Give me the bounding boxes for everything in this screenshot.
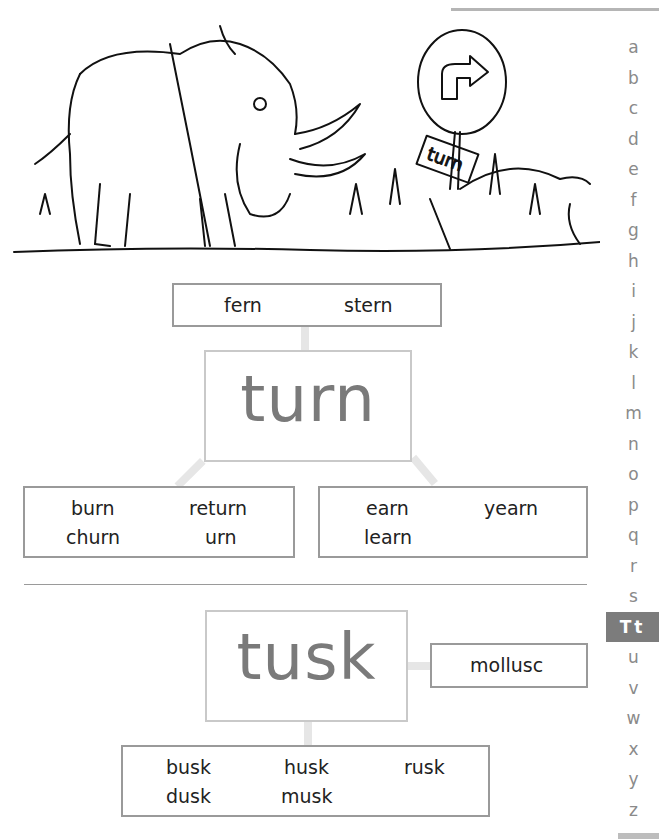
connector-top	[301, 326, 309, 350]
index-letter-z[interactable]: z	[608, 795, 659, 826]
index-letter-n[interactable]: n	[608, 429, 659, 460]
alphabet-index: a b c d e f g h i j k l m n o p q r s Tt…	[608, 32, 659, 825]
index-letter-i[interactable]: i	[608, 276, 659, 307]
index-letter-o[interactable]: o	[608, 459, 659, 490]
index-letter-t-active[interactable]: Tt	[606, 612, 659, 643]
index-letter-c[interactable]: c	[608, 93, 659, 124]
word-earn: earn	[366, 497, 409, 519]
index-letter-w[interactable]: w	[608, 703, 659, 734]
index-letter-d[interactable]: d	[608, 124, 659, 155]
connector-left	[175, 458, 206, 489]
connector-tusk-bottom	[304, 721, 312, 746]
word-mollusc: mollusc	[470, 654, 543, 676]
word-husk: husk	[284, 756, 329, 778]
word-dusk: dusk	[166, 785, 211, 807]
connector-right	[410, 455, 438, 486]
index-letter-h[interactable]: h	[608, 246, 659, 277]
tusk-side-box: mollusc	[430, 643, 588, 688]
tusk-bottom-box: busk husk rusk dusk musk	[121, 745, 490, 817]
index-letter-g[interactable]: g	[608, 215, 659, 246]
turn-top-box: fern stern	[172, 283, 442, 327]
mammoth-illustration: turn	[10, 14, 600, 264]
index-letter-e[interactable]: e	[608, 154, 659, 185]
section-divider	[24, 584, 587, 585]
index-letter-f[interactable]: f	[608, 185, 659, 216]
index-letter-r[interactable]: r	[608, 551, 659, 582]
index-letter-j[interactable]: j	[608, 307, 659, 338]
turn-left-box: burn return churn urn	[23, 486, 295, 558]
index-letter-s[interactable]: s	[608, 581, 659, 612]
turn-headword-box: turn	[204, 350, 412, 462]
headword-turn: turn	[206, 362, 410, 436]
word-busk: busk	[166, 756, 211, 778]
turn-right-box: earn yearn learn	[318, 486, 588, 558]
word-rusk: rusk	[404, 756, 445, 778]
word-yearn: yearn	[484, 497, 538, 519]
index-letter-k[interactable]: k	[608, 337, 659, 368]
word-stern: stern	[344, 294, 393, 316]
tusk-headword-box: tusk	[205, 610, 408, 722]
index-letter-a[interactable]: a	[608, 32, 659, 63]
index-letter-u[interactable]: u	[608, 642, 659, 673]
word-burn: burn	[71, 497, 115, 519]
index-letter-x[interactable]: x	[608, 734, 659, 765]
index-letter-p[interactable]: p	[608, 490, 659, 521]
headword-tusk: tusk	[207, 620, 406, 694]
index-letter-m[interactable]: m	[608, 398, 659, 429]
index-letter-l[interactable]: l	[608, 368, 659, 399]
word-fern: fern	[224, 294, 262, 316]
word-churn: churn	[66, 526, 120, 548]
index-letter-v[interactable]: v	[608, 673, 659, 704]
word-learn: learn	[364, 526, 412, 548]
top-rule	[451, 8, 659, 11]
word-urn: urn	[205, 526, 237, 548]
index-letter-y[interactable]: y	[608, 764, 659, 795]
word-return: return	[189, 497, 247, 519]
bottom-tab	[618, 833, 659, 839]
word-musk: musk	[281, 785, 332, 807]
index-letter-q[interactable]: q	[608, 520, 659, 551]
index-letter-b[interactable]: b	[608, 63, 659, 94]
